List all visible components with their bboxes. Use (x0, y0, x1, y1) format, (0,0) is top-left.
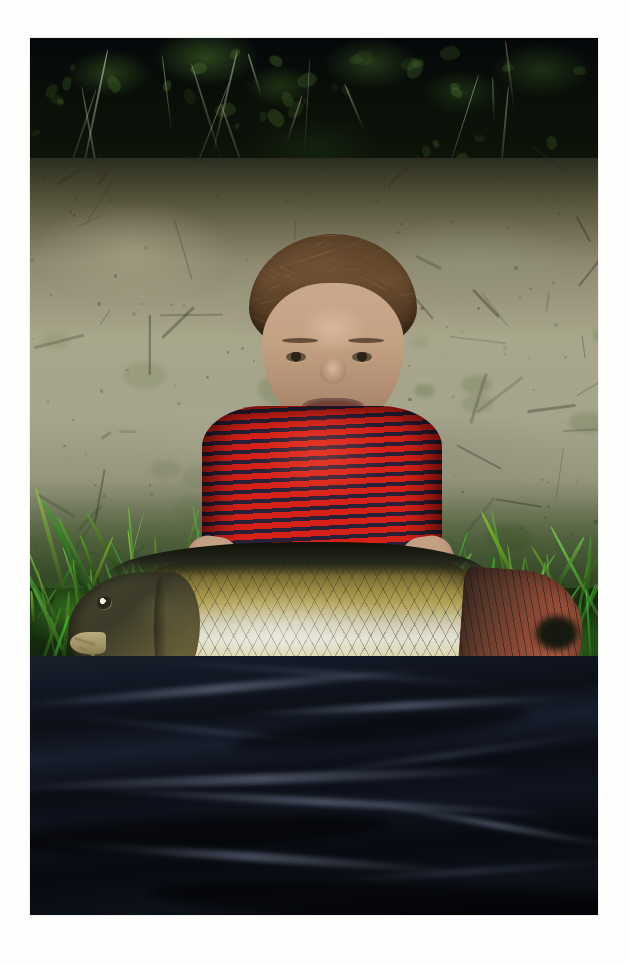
hair-strand (259, 298, 278, 304)
hair-strand (325, 244, 333, 245)
boy-eyebrow-left (282, 338, 318, 343)
hair-strand (343, 269, 361, 271)
hair-strand (400, 319, 426, 321)
carp-tail-notch (536, 616, 578, 650)
hair-strand (288, 284, 299, 285)
hair-strand (341, 246, 369, 254)
black-tarp-band (30, 656, 598, 915)
hair-strand (328, 267, 336, 272)
boy-eye-right (352, 352, 372, 362)
carp-dorsal-ridge (108, 542, 488, 576)
hair-strand (266, 283, 286, 291)
hair-strand (393, 257, 410, 260)
photograph (30, 38, 598, 915)
hair-strand (330, 257, 337, 262)
boy-eyebrow-right (348, 338, 384, 343)
boy-eye-left (286, 352, 306, 362)
hair-strand (263, 248, 285, 256)
hair-strand (266, 268, 277, 270)
hair-strand (253, 256, 278, 260)
boy-nose (320, 358, 346, 384)
photo-page (0, 0, 630, 965)
carp-eye (97, 596, 112, 610)
hair-strand (366, 238, 385, 244)
hair-strand (399, 291, 426, 296)
hair-strand (402, 300, 435, 303)
hair-strand (288, 242, 304, 252)
hair-strand (381, 234, 404, 241)
hair-strand (250, 297, 260, 303)
